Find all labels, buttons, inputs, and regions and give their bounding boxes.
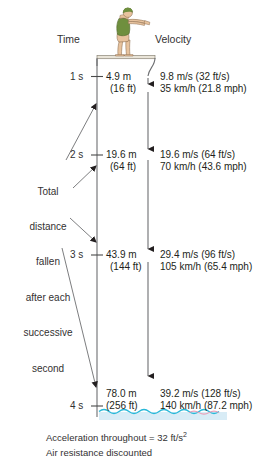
annotation-line-4: after each	[0, 292, 96, 304]
caption-air-resistance: Air resistance discounted	[46, 447, 152, 458]
velocity-kmh-2s: 70 km/h (43.6 mph)	[160, 161, 247, 173]
velocity-si-1s: 9.8 m/s (32 ft/s)	[160, 71, 229, 83]
distance-meters-4s: 78.0 m	[106, 388, 137, 400]
velocity-si-2s: 19.6 m/s (64 ft/s)	[160, 149, 235, 161]
caption-exponent: 2	[183, 431, 187, 438]
physics-diagram: Time Velocity Total distance fallen afte…	[0, 0, 276, 468]
distance-meters-2s: 19.6 m	[106, 149, 137, 161]
velocity-si-3s: 29.4 m/s (96 ft/s)	[160, 249, 235, 261]
velocity-kmh-3s: 105 km/h (65.4 mph)	[160, 261, 252, 273]
annotation-line-1: Total	[0, 186, 96, 198]
annotation-line-6: second	[0, 363, 96, 375]
distance-feet-4s: (256 ft)	[106, 400, 138, 412]
caption-acceleration-text: Acceleration throughout = 32 ft/s	[46, 432, 183, 443]
distance-feet-3s: (144 ft)	[110, 261, 142, 273]
time-label-2s: 2 s	[70, 149, 83, 161]
velocity-column-header: Velocity	[155, 33, 191, 45]
caption-acceleration: Acceleration throughout = 32 ft/s2	[46, 432, 187, 443]
annotation-line-2: distance	[0, 221, 96, 233]
distance-meters-3s: 43.9 m	[106, 249, 137, 261]
velocity-si-4s: 39.2 m/s (128 ft/s)	[160, 388, 241, 400]
velocity-kmh-1s: 35 km/h (21.8 mph)	[160, 83, 247, 95]
time-label-4s: 4 s	[70, 400, 83, 412]
distance-feet-1s: (16 ft)	[110, 83, 136, 95]
total-distance-annotation: Total distance fallen after each success…	[0, 162, 96, 398]
velocity-axis-line	[148, 58, 155, 376]
time-column-header: Time	[57, 33, 80, 45]
annotation-line-5: successive	[0, 327, 96, 339]
diver-figure	[116, 8, 150, 56]
velocity-kmh-4s: 140 km/h (87.2 mph)	[160, 400, 252, 412]
time-label-3s: 3 s	[70, 249, 83, 261]
distance-meters-1s: 4.9 m	[106, 71, 131, 83]
time-label-1s: 1 s	[70, 71, 83, 83]
distance-feet-2s: (64 ft)	[110, 161, 136, 173]
